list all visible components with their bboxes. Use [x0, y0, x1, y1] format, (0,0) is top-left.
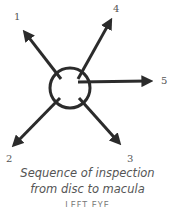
arrow-label-4: 4: [113, 3, 119, 14]
arrow-label-2: 2: [6, 153, 12, 164]
caption-line-1: Sequence of inspection: [0, 166, 175, 181]
arrow-3: [79, 98, 118, 141]
caption-line-2: from disc to macula: [0, 182, 175, 197]
arrow-1: [26, 34, 61, 79]
cut-off-label: LEFT EYE: [0, 200, 175, 207]
arrow-5: [78, 81, 148, 82]
arrow-4: [78, 22, 110, 79]
arrow-2: [15, 98, 60, 143]
arrow-label-3: 3: [127, 153, 133, 164]
arrow-label-1: 1: [14, 11, 20, 22]
arrow-label-5: 5: [161, 75, 167, 86]
